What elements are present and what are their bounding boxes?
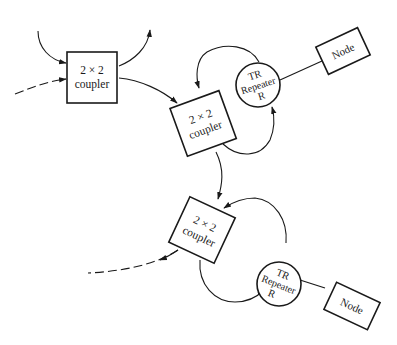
output-dashed-left <box>88 250 178 273</box>
link-coupler2-coupler3 <box>216 152 222 199</box>
output-arc-top <box>119 30 150 66</box>
repeater-2: TR Repeater R <box>256 262 302 307</box>
repeater-1: TR Repeater R <box>236 63 281 107</box>
node-2: Node <box>324 282 380 329</box>
input-arc-top <box>38 31 66 63</box>
coupler-1: 2 × 2 coupler <box>67 52 117 103</box>
output-arrowhead <box>160 250 178 260</box>
coupler-1-label-top: 2 × 2 <box>80 64 104 76</box>
link-repeater2-node2 <box>300 280 325 288</box>
network-diagram: 2 × 2 coupler 2 × 2 coupler TR Repeater … <box>0 0 397 345</box>
input-dashed-left <box>15 79 66 94</box>
loop-coupler3-to-repeater2 <box>200 260 264 302</box>
node-1: Node <box>316 28 370 75</box>
link-coupler1-coupler2 <box>119 78 177 103</box>
link-repeater1-node1 <box>280 61 322 80</box>
coupler-1-label-bottom: coupler <box>75 78 110 91</box>
